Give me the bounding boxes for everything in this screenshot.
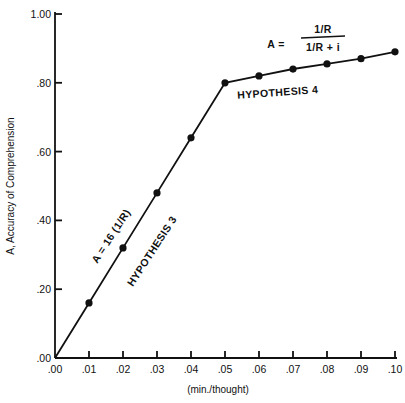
- y-tick-label: .80: [36, 77, 51, 89]
- formula-hypothesis-3: A = 16 (1/R): [89, 207, 133, 265]
- data-point: [119, 244, 126, 251]
- x-tick-label: .06: [252, 363, 267, 375]
- data-point: [221, 79, 228, 86]
- x-tick-label: .03: [150, 363, 165, 375]
- x-tick-label: .08: [320, 363, 335, 375]
- formula-hypothesis-4-lhs: A =: [267, 38, 284, 50]
- data-point: [391, 48, 398, 55]
- data-point: [323, 60, 330, 67]
- x-tick-label: .07: [286, 363, 301, 375]
- x-ticks: .00.01.02.03.04.05.06.07.08.09.10: [48, 351, 403, 375]
- accuracy-line: [55, 52, 395, 358]
- y-tick-label: .40: [36, 214, 51, 226]
- y-ticks: .00.20.40.60.801.00: [31, 8, 62, 364]
- x-tick-label: .05: [218, 363, 233, 375]
- formula-hypothesis-4-numerator: 1/R: [314, 23, 332, 35]
- fraction-bar: [301, 36, 345, 38]
- data-point: [357, 55, 364, 62]
- x-tick-label: .09: [354, 363, 369, 375]
- y-tick-label: .60: [36, 146, 51, 158]
- data-point: [153, 189, 160, 196]
- x-tick-label: .01: [82, 363, 97, 375]
- y-tick-label: .20: [36, 283, 51, 295]
- formula-hypothesis-4-denominator: 1/R + i: [306, 41, 340, 53]
- data-point: [289, 65, 296, 72]
- label-hypothesis-3: HYPOTHESIS 3: [124, 213, 178, 288]
- x-axis-title: (min./thought): [187, 384, 249, 395]
- data-point: [187, 134, 194, 141]
- x-tick-label: .02: [116, 363, 131, 375]
- accuracy-chart: .00.20.40.60.801.00 .00.01.02.03.04.05.0…: [0, 0, 405, 403]
- label-hypothesis-4: HYPOTHESIS 4: [237, 83, 319, 101]
- x-tick-label: .10: [388, 363, 403, 375]
- data-point: [255, 72, 262, 79]
- x-tick-label: .04: [184, 363, 199, 375]
- axes: [55, 12, 397, 358]
- x-tick-label: .00: [48, 363, 63, 375]
- data-point: [85, 299, 92, 306]
- y-axis-title: A, Accuracy of Comprehension: [5, 117, 16, 254]
- y-tick-label: 1.00: [31, 8, 52, 20]
